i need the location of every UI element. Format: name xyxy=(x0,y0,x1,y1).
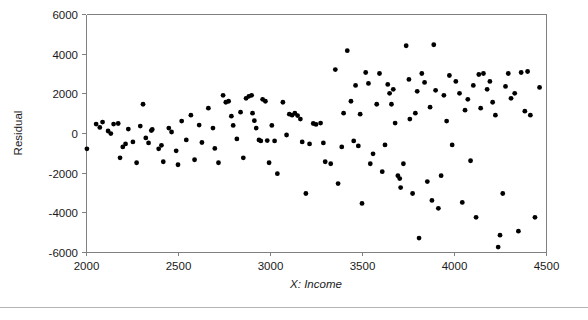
data-point xyxy=(398,185,403,190)
data-point xyxy=(487,79,492,84)
data-point xyxy=(407,117,412,122)
data-point xyxy=(212,146,217,151)
data-point xyxy=(318,121,323,126)
y-tick-label: 6000 xyxy=(52,9,78,21)
data-point xyxy=(328,161,333,166)
data-point xyxy=(485,87,490,92)
data-point xyxy=(339,144,344,149)
data-point xyxy=(150,127,155,132)
data-point xyxy=(234,137,239,142)
data-point xyxy=(280,100,285,105)
data-point xyxy=(94,122,99,127)
y-tick-label: -4000 xyxy=(49,207,78,219)
data-point xyxy=(100,120,105,125)
data-point xyxy=(97,125,102,130)
data-point xyxy=(509,96,514,101)
data-point xyxy=(249,93,254,98)
data-point xyxy=(351,139,356,144)
data-point xyxy=(314,122,319,127)
data-point xyxy=(211,126,216,131)
data-point xyxy=(533,215,538,220)
y-axis-title: Residual xyxy=(12,111,24,156)
y-tick-label: -2000 xyxy=(49,168,78,180)
data-point xyxy=(250,111,255,116)
data-point xyxy=(231,123,236,128)
data-point xyxy=(146,141,151,146)
data-point xyxy=(141,102,146,107)
data-point xyxy=(450,143,455,148)
data-point xyxy=(431,42,436,47)
data-point xyxy=(349,99,354,104)
data-point xyxy=(238,110,243,115)
data-point xyxy=(522,109,527,114)
data-point xyxy=(221,93,226,98)
y-tick-label: 4000 xyxy=(52,49,78,61)
data-point xyxy=(430,198,435,203)
data-point xyxy=(363,70,368,75)
data-point xyxy=(272,139,277,144)
data-point xyxy=(134,160,139,165)
data-point xyxy=(393,121,398,126)
data-point xyxy=(284,133,289,138)
data-point xyxy=(465,97,470,102)
data-point xyxy=(333,67,338,72)
data-point xyxy=(169,130,174,135)
data-point xyxy=(493,113,498,118)
data-point xyxy=(476,72,481,77)
data-point xyxy=(407,77,412,82)
x-tick-label: 2000 xyxy=(74,260,100,272)
data-point xyxy=(116,121,121,126)
data-point xyxy=(275,171,280,176)
data-point xyxy=(404,43,409,48)
data-point xyxy=(471,83,476,88)
data-point xyxy=(506,71,511,76)
data-point xyxy=(417,236,422,241)
data-point xyxy=(478,106,483,111)
data-point xyxy=(366,81,371,86)
data-point xyxy=(263,99,268,104)
data-point xyxy=(303,191,308,196)
data-point xyxy=(360,201,365,206)
data-point xyxy=(441,93,446,98)
data-point xyxy=(468,158,473,163)
data-point xyxy=(413,111,418,116)
data-point xyxy=(206,106,211,111)
data-point xyxy=(498,233,503,238)
data-point xyxy=(269,123,274,128)
data-point xyxy=(371,151,376,156)
data-point xyxy=(453,79,458,84)
data-point xyxy=(241,155,246,160)
data-point xyxy=(439,173,444,178)
data-point xyxy=(216,160,221,165)
data-point xyxy=(118,155,123,160)
y-tick-label: -6000 xyxy=(49,247,78,259)
data-point xyxy=(428,105,433,110)
data-point xyxy=(229,114,234,119)
y-tick-label: 0 xyxy=(72,128,78,140)
data-point xyxy=(258,139,263,144)
data-point xyxy=(123,142,128,147)
data-point xyxy=(143,136,148,141)
data-point xyxy=(422,80,427,85)
y-tick-label: 2000 xyxy=(52,88,78,100)
data-point xyxy=(401,161,406,166)
data-point xyxy=(436,206,441,211)
data-point xyxy=(321,141,326,146)
data-point xyxy=(298,117,303,122)
data-point xyxy=(490,100,495,105)
data-point xyxy=(85,146,90,151)
data-point xyxy=(307,142,312,147)
data-point xyxy=(377,71,382,76)
data-point xyxy=(433,88,438,93)
data-point xyxy=(385,82,390,87)
data-point xyxy=(179,119,184,124)
data-point xyxy=(226,99,231,104)
data-point xyxy=(111,122,116,127)
x-tick-label: 4500 xyxy=(534,260,560,272)
data-point xyxy=(447,73,452,78)
data-point xyxy=(184,138,189,143)
data-point xyxy=(161,159,166,164)
x-tick-label: 4000 xyxy=(442,260,468,272)
data-point xyxy=(463,108,468,113)
data-point xyxy=(192,157,197,162)
